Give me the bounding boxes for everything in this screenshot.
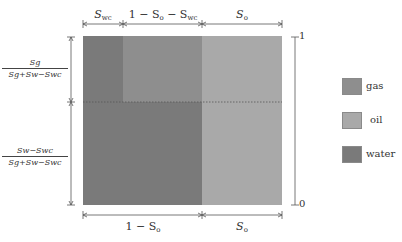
label-one-minus-so-minus-swc: 1 − So − Swc (128, 8, 198, 22)
legend-label-oil: oil (370, 114, 382, 125)
label-so-bottom: So (230, 220, 254, 234)
legend-swatch-water (342, 146, 362, 163)
right-axis (291, 37, 299, 205)
axis-tick-0: 0 (299, 198, 305, 209)
left-dimension-line (67, 37, 75, 205)
fraction-water-ratio: Sw−Swc Sg+Sw−Swc (2, 146, 68, 167)
label-one-minus-so-bottom: 1 − So (118, 220, 168, 234)
fraction-gas-ratio: Sg Sg+Sw−Swc (2, 58, 68, 79)
axis-tick-1: 1 (299, 30, 305, 41)
legend-swatch-oil (342, 112, 362, 129)
label-so-top: So (230, 8, 254, 22)
legend-label-water: water (366, 148, 395, 159)
legend-swatch-gas (342, 78, 362, 95)
legend-label-gas: gas (366, 80, 384, 91)
bottom-dimension-line (83, 211, 282, 219)
label-swc-top: Swc (88, 8, 118, 22)
